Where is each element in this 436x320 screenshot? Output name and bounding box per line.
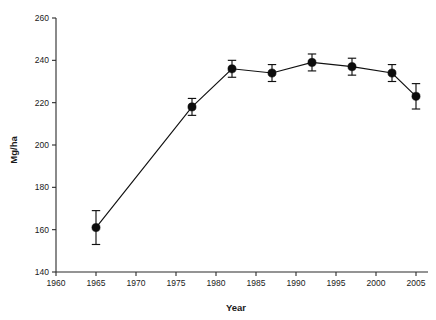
y-axis-title: Mg/ha: [8, 136, 19, 164]
x-tick-label: 1980: [207, 278, 226, 288]
x-tick-label: 1960: [47, 278, 66, 288]
x-tick-label: 1985: [247, 278, 266, 288]
data-point-marker: [268, 69, 276, 77]
data-point-marker: [388, 69, 396, 77]
axes-group: [56, 18, 428, 272]
x-tick-label: 1990: [287, 278, 306, 288]
y-tick-label: 140: [35, 267, 49, 277]
y-tick-label: 260: [35, 13, 49, 23]
y-tick-label: 160: [35, 225, 49, 235]
x-tick-label: 1975: [167, 278, 186, 288]
x-axis-title: Year: [226, 302, 246, 313]
y-tick-label: 220: [35, 98, 49, 108]
data-point-marker: [412, 92, 420, 100]
y-tick-label: 180: [35, 182, 49, 192]
x-tick-label: 2000: [367, 278, 386, 288]
x-tick-label: 1970: [127, 278, 146, 288]
data-point-marker: [92, 223, 100, 231]
chart-figure: 140160180200220240260 196019651970197519…: [0, 0, 436, 320]
data-point-marker: [308, 58, 316, 66]
x-tick-label: 1995: [327, 278, 346, 288]
y-tick-label: 240: [35, 55, 49, 65]
x-tick-label: 1965: [87, 278, 106, 288]
x-tick-group: 1960196519701975198019851990199520002005: [47, 272, 426, 288]
data-point-marker: [228, 65, 236, 73]
data-series-group: [92, 54, 420, 245]
line-chart-canvas: 140160180200220240260 196019651970197519…: [0, 0, 436, 320]
data-point-marker: [348, 63, 356, 71]
series-polyline: [96, 62, 416, 227]
y-tick-group: 140160180200220240260: [35, 13, 56, 277]
x-tick-label: 2005: [407, 278, 426, 288]
data-point-marker: [188, 103, 196, 111]
y-tick-label: 200: [35, 140, 49, 150]
